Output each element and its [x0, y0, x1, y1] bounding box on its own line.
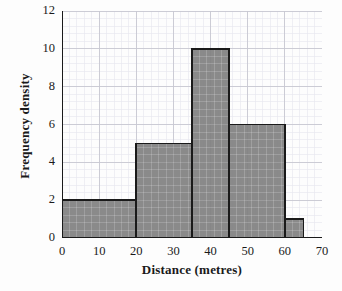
histogram-bar [136, 143, 192, 238]
histogram-bar [192, 49, 229, 238]
x-tick-label: 30 [160, 244, 186, 259]
x-tick-label: 20 [123, 244, 149, 259]
chart-canvas [62, 11, 322, 238]
histogram-bar [229, 125, 285, 239]
y-tick-label: 2 [29, 192, 55, 207]
x-tick-label: 50 [235, 244, 261, 259]
y-tick-label: 10 [29, 41, 55, 56]
histogram-figure: Frequency density Distance (metres) 0246… [0, 0, 342, 291]
y-tick-label: 0 [29, 230, 55, 245]
x-axis-title: Distance (metres) [62, 262, 322, 278]
y-tick-label: 12 [29, 3, 55, 18]
x-tick-label: 10 [86, 244, 112, 259]
histogram-bar [285, 219, 304, 238]
x-tick-label: 60 [272, 244, 298, 259]
plot-area [62, 11, 322, 238]
x-tick-label: 0 [49, 244, 75, 259]
x-tick-label: 70 [309, 244, 335, 259]
y-tick-label: 8 [29, 79, 55, 94]
x-tick-label: 40 [198, 244, 224, 259]
y-tick-label: 4 [29, 154, 55, 169]
y-tick-label: 6 [29, 117, 55, 132]
